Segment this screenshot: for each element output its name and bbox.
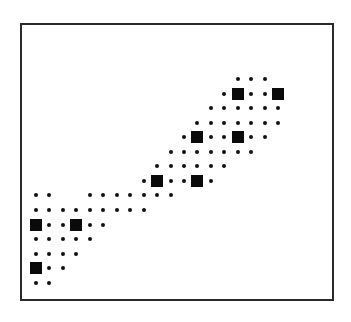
square-marker: [70, 219, 82, 231]
grid-dot: [249, 92, 253, 96]
grid-dot: [222, 135, 226, 139]
grid-dot: [169, 179, 173, 183]
grid-dot: [61, 252, 65, 256]
grid-dot: [182, 164, 186, 168]
grid-dot: [128, 193, 132, 197]
grid-dot: [169, 193, 173, 197]
grid-dot: [222, 121, 226, 125]
grid-dot: [142, 208, 146, 212]
grid-dot: [249, 106, 253, 110]
square-marker: [30, 262, 42, 274]
grid-dot: [169, 164, 173, 168]
grid-dot: [236, 106, 240, 110]
grid-dot: [195, 164, 199, 168]
grid-dot: [222, 150, 226, 154]
grid-dot: [236, 150, 240, 154]
grid-dot: [209, 121, 213, 125]
grid-dot: [61, 266, 65, 270]
grid-dot: [61, 223, 65, 227]
grid-dot: [101, 223, 105, 227]
grid-dot: [47, 193, 51, 197]
square-marker: [30, 219, 42, 231]
grid-dot: [88, 193, 92, 197]
grid-dot: [61, 208, 65, 212]
grid-dot: [34, 237, 38, 241]
grid-dot: [222, 106, 226, 110]
grid-dot: [169, 150, 173, 154]
grid-dot: [263, 77, 267, 81]
grid-dot: [74, 252, 78, 256]
grid-dot: [47, 208, 51, 212]
grid-dot: [101, 193, 105, 197]
grid-dot: [88, 223, 92, 227]
grid-dot: [236, 77, 240, 81]
grid-dot: [34, 193, 38, 197]
grid-dot: [263, 135, 267, 139]
grid-dot: [47, 281, 51, 285]
grid-dot: [209, 150, 213, 154]
grid-dot: [209, 135, 213, 139]
grid-dot: [47, 252, 51, 256]
grid-dot: [74, 208, 78, 212]
square-marker: [232, 88, 244, 100]
square-marker: [151, 175, 163, 187]
grid-dot: [249, 135, 253, 139]
grid-dot: [47, 223, 51, 227]
grid-dot: [222, 92, 226, 96]
grid-dot: [276, 106, 280, 110]
grid-dot: [155, 193, 159, 197]
grid-dot: [249, 121, 253, 125]
grid-dot: [222, 164, 226, 168]
grid-dot: [142, 179, 146, 183]
grid-dot: [195, 150, 199, 154]
grid-dot: [115, 193, 119, 197]
grid-dot: [263, 121, 267, 125]
grid-dot: [209, 164, 213, 168]
grid-dot: [209, 106, 213, 110]
grid-dot: [155, 164, 159, 168]
grid-dot: [195, 121, 199, 125]
grid-dot: [276, 121, 280, 125]
grid-dot: [263, 92, 267, 96]
grid-dot: [249, 77, 253, 81]
grid-dot: [128, 208, 132, 212]
grid-dot: [182, 179, 186, 183]
grid-dot: [34, 281, 38, 285]
grid-dot: [142, 193, 146, 197]
grid-dot: [74, 237, 78, 241]
square-marker: [272, 88, 284, 100]
grid-dot: [115, 208, 119, 212]
grid-dot: [47, 266, 51, 270]
grid-dot: [249, 150, 253, 154]
grid-dot: [61, 237, 65, 241]
grid-dot: [263, 106, 267, 110]
dot-matrix-plot: [0, 0, 351, 322]
grid-dot: [88, 237, 92, 241]
grid-dot: [34, 208, 38, 212]
grid-dot: [236, 121, 240, 125]
grid-dot: [101, 208, 105, 212]
square-marker: [232, 131, 244, 143]
grid-dot: [34, 252, 38, 256]
square-marker: [191, 131, 203, 143]
grid-dot: [182, 135, 186, 139]
grid-dot: [88, 208, 92, 212]
grid-dot: [47, 237, 51, 241]
grid-dot: [209, 179, 213, 183]
square-marker: [191, 175, 203, 187]
grid-dot: [182, 150, 186, 154]
